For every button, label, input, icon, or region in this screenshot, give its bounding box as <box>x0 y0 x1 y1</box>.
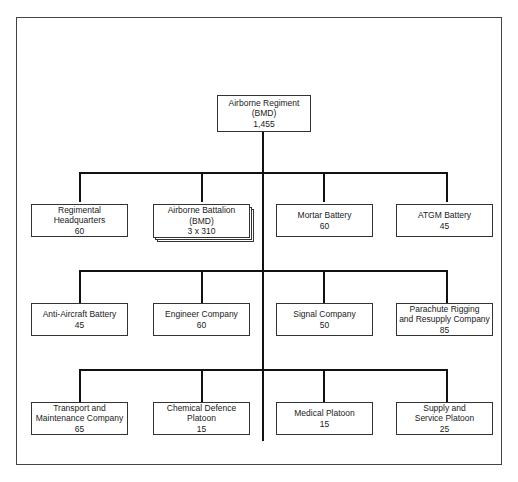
unit-name: Airborne Regiment <box>229 98 300 109</box>
row1-drop-1 <box>79 172 81 202</box>
row3-drop-2 <box>201 369 203 402</box>
unit-signal-company: Signal Company 50 <box>276 303 373 336</box>
unit-name: Engineer Company <box>165 309 238 320</box>
unit-regimental-headquarters: Regimental Headquarters 60 <box>31 204 128 237</box>
row3-hline <box>79 369 447 371</box>
unit-strength: 15 <box>197 424 206 435</box>
row1-drop-3 <box>323 172 325 202</box>
unit-airborne-battalion: Airborne Battalion (BMD) 3 x 310 <box>153 204 250 238</box>
unit-name: Platoon <box>187 413 216 424</box>
unit-name: (BMD) <box>189 216 214 227</box>
unit-strength: 45 <box>75 320 84 331</box>
row3-drop-1 <box>79 369 81 402</box>
unit-name: Anti-Aircraft Battery <box>43 309 117 320</box>
unit-name: Signal Company <box>293 309 355 320</box>
unit-medical-platoon: Medical Platoon 15 <box>276 402 373 435</box>
unit-atgm-battery: ATGM Battery 45 <box>396 204 493 237</box>
row2-drop-2 <box>201 270 203 303</box>
row3-drop-4 <box>446 369 448 402</box>
unit-name: Maintenance Company <box>36 413 123 424</box>
unit-strength: 3 x 310 <box>188 226 216 237</box>
unit-anti-aircraft-battery: Anti-Aircraft Battery 45 <box>31 303 128 336</box>
unit-name: Service Platoon <box>415 413 475 424</box>
unit-name: Transport and <box>53 403 106 414</box>
unit-strength: 45 <box>440 221 449 232</box>
unit-name: Supply and <box>423 403 466 414</box>
unit-strength: 1,455 <box>253 119 274 130</box>
unit-name: Regimental <box>58 205 101 216</box>
row1-drop-4 <box>446 172 448 202</box>
unit-supply-service-platoon: Supply and Service Platoon 25 <box>396 402 493 435</box>
diagram-frame <box>16 17 502 465</box>
unit-strength: 50 <box>320 320 329 331</box>
unit-name: Airborne Battalion <box>168 205 236 216</box>
unit-strength: 15 <box>320 419 329 430</box>
row2-drop-1 <box>79 270 81 303</box>
unit-chemical-defence-platoon: Chemical Defence Platoon 15 <box>153 402 250 435</box>
unit-engineer-company: Engineer Company 60 <box>153 303 250 336</box>
unit-strength: 60 <box>75 226 84 237</box>
unit-strength: 25 <box>440 424 449 435</box>
unit-name: ATGM Battery <box>418 210 471 221</box>
unit-name: Mortar Battery <box>298 210 352 221</box>
unit-name: Medical Platoon <box>294 408 354 419</box>
unit-airborne-regiment: Airborne Regiment (BMD) 1,455 <box>217 95 311 132</box>
unit-transport-maintenance-company: Transport and Maintenance Company 65 <box>31 402 128 435</box>
unit-parachute-rigging-company: Parachute Rigging and Resupply Company 8… <box>396 303 493 336</box>
unit-name: Parachute Rigging <box>410 304 480 315</box>
row2-hline <box>79 270 447 272</box>
unit-name: Headquarters <box>54 215 106 226</box>
row3-drop-3 <box>323 369 325 402</box>
row2-drop-3 <box>323 270 325 303</box>
unit-name: (BMD) <box>252 108 277 119</box>
unit-name: and Resupply Company <box>399 314 490 325</box>
row2-drop-4 <box>446 270 448 303</box>
unit-name: Chemical Defence <box>167 403 236 414</box>
row1-drop-2 <box>201 172 203 202</box>
trunk-line <box>262 131 264 441</box>
unit-strength: 85 <box>440 325 449 336</box>
row1-hline <box>79 172 447 174</box>
unit-strength: 65 <box>75 424 84 435</box>
unit-strength: 60 <box>320 221 329 232</box>
unit-mortar-battery: Mortar Battery 60 <box>276 204 373 237</box>
unit-strength: 60 <box>197 320 206 331</box>
